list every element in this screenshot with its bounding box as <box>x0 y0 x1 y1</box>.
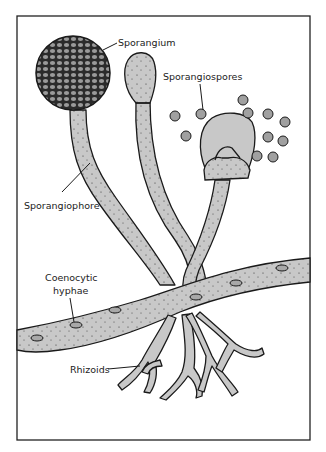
mold-diagram: Sporangium Sporangiospores Sporangiophor… <box>0 0 326 452</box>
label-sporangiophore: Sporangiophore <box>24 200 100 211</box>
ruptured-sporangium <box>200 113 255 180</box>
label-rhizoids: Rhizoids <box>70 364 110 375</box>
label-coenocytic-line2: hyphae <box>53 285 89 296</box>
sporangium <box>36 36 110 110</box>
label-sporangiospores: Sporangiospores <box>163 71 242 82</box>
label-sporangium: Sporangium <box>118 37 176 48</box>
label-coenocytic-line1: Coenocytic <box>45 272 98 283</box>
